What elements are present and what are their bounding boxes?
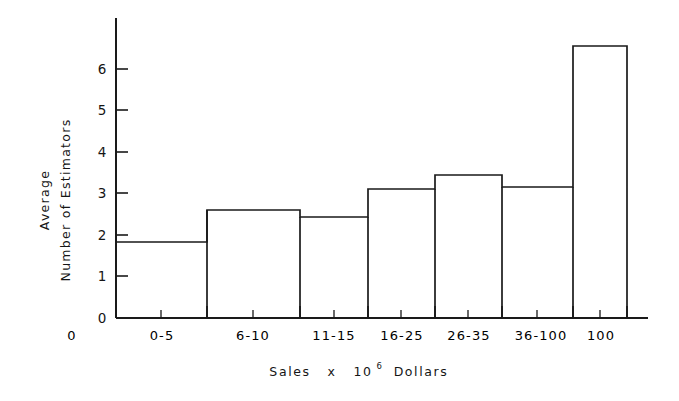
x-axis-title-exponent: 6 — [376, 361, 383, 371]
x-tick-label-26-35: 26-35 — [447, 328, 490, 343]
x-axis-title-sales: Sales — [269, 364, 310, 379]
y-tick-label-6: 6 — [98, 61, 107, 77]
x-axis-minor-ticks — [161, 310, 600, 318]
bar-chart-svg: 6 5 4 3 2 1 0 — [0, 0, 679, 401]
x-axis-title-dollars: Dollars — [394, 364, 449, 379]
x-axis-major-ticks — [116, 306, 627, 318]
bar-separators — [207, 187, 573, 318]
x-tick-label-0-5: 0-5 — [150, 328, 175, 343]
x-tick-label-6-10: 6-10 — [236, 328, 270, 343]
y-tick-label-4: 4 — [98, 144, 107, 160]
x-tick-label-36-100: 36-100 — [515, 328, 568, 343]
y-tick-label-2: 2 — [98, 227, 107, 243]
y-axis-title-line2: Number of Estimators — [58, 118, 73, 281]
y-axis-ticks — [116, 69, 128, 276]
y-tick-label-1: 1 — [98, 268, 107, 284]
y-tick-label-3: 3 — [98, 185, 107, 201]
y-axis-title-line1: Average — [37, 170, 52, 230]
x-tick-label-11-15: 11-15 — [312, 328, 355, 343]
histogram-outline — [116, 46, 627, 318]
x-axis-title-base: 10 — [353, 364, 372, 379]
y-tick-label-5: 5 — [98, 102, 107, 118]
x-tick-label-100: 100 — [587, 328, 615, 343]
x-axis-title: Sales x 10 6 Dollars — [269, 361, 448, 379]
chart-figure: 6 5 4 3 2 1 0 — [0, 0, 679, 401]
x-origin-label: 0 — [67, 328, 76, 343]
x-tick-label-16-25: 16-25 — [380, 328, 423, 343]
y-tick-label-0: 0 — [98, 310, 107, 326]
x-axis-title-times: x — [328, 364, 337, 379]
